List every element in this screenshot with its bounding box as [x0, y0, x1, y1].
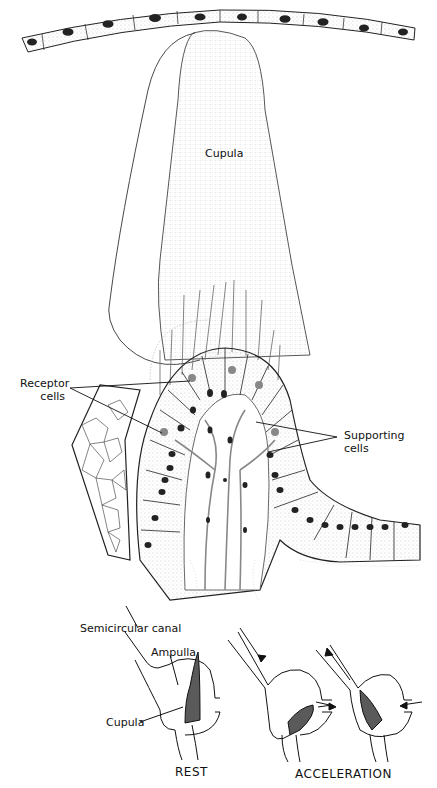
schematic-acceleration-1 — [228, 628, 336, 762]
label-receptor-cells: Receptor cells — [20, 377, 65, 403]
crista-ampullaris — [137, 348, 420, 600]
connective-tissue-left — [72, 385, 140, 560]
label-supporting-line1: Supporting — [344, 429, 405, 442]
label-receptor-line1: Receptor — [20, 377, 65, 390]
label-supporting-line2: cells — [344, 442, 405, 455]
cupula-mass — [158, 30, 310, 360]
label-semicircular-canal: Semicircular canal — [80, 622, 181, 635]
label-ampulla: Ampulla — [151, 646, 196, 659]
label-supporting-cells: Supporting cells — [344, 429, 405, 455]
ampulla-crista-illustration — [0, 0, 437, 788]
cupula-shape-acceleration-2 — [360, 690, 382, 730]
label-cupula: Cupula — [205, 147, 243, 160]
label-receptor-line2: cells — [20, 390, 65, 403]
cupula-shape-rest — [185, 652, 200, 723]
cupula-shape-acceleration-1 — [288, 705, 313, 735]
caption-rest: REST — [175, 765, 208, 779]
label-cupula-schematic: Cupula — [106, 716, 144, 729]
caption-acceleration: ACCELERATION — [295, 767, 392, 781]
schematic-acceleration-2 — [316, 645, 422, 762]
